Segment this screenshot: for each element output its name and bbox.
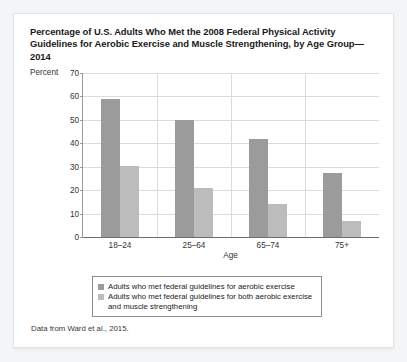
gridline-vertical <box>231 73 232 237</box>
y-axis-tick-label: 60 <box>70 92 79 101</box>
bar <box>323 173 342 237</box>
gridline-vertical <box>157 73 158 237</box>
y-axis-tick-label: 20 <box>70 186 79 195</box>
bar-chart: Percent 01020304050607018–2425–6465–7475… <box>30 68 382 254</box>
y-axis-tick-mark <box>80 237 83 238</box>
y-axis-tick-mark <box>80 214 83 215</box>
y-axis-tick-label: 10 <box>70 209 79 218</box>
y-axis-label: Percent <box>30 68 58 77</box>
legend-label: Adults who met federal guidelines for ae… <box>108 282 295 291</box>
y-axis-tick-mark <box>80 167 83 168</box>
y-axis-tick-label: 50 <box>70 115 79 124</box>
bar <box>194 188 213 237</box>
bar <box>249 139 268 237</box>
y-axis-tick-label: 30 <box>70 162 79 171</box>
y-axis-tick-label: 0 <box>74 233 79 242</box>
bar <box>342 221 361 237</box>
gridline-vertical <box>305 73 306 237</box>
x-axis-tick-label: 18–24 <box>109 241 132 250</box>
chart-card: Percentage of U.S. Adults Who Met the 20… <box>13 13 394 348</box>
legend-label: Adults who met federal guidelines for bo… <box>108 292 315 311</box>
x-axis-tick-label: 25–64 <box>183 241 206 250</box>
y-axis-tick-label: 40 <box>70 139 79 148</box>
page-title: Percentage of U.S. Adults Who Met the 20… <box>30 26 378 63</box>
plot-area: 01020304050607018–2425–6465–7475+ <box>82 73 379 238</box>
y-axis-tick-mark <box>80 96 83 97</box>
legend-item: Adults who met federal guidelines for bo… <box>98 292 315 311</box>
bar <box>175 120 194 237</box>
legend-swatch-aerobic-icon <box>98 284 104 290</box>
y-axis-tick-mark <box>80 143 83 144</box>
legend-item: Adults who met federal guidelines for ae… <box>98 282 315 291</box>
y-axis-tick-label: 70 <box>70 69 79 78</box>
chart-legend: Adults who met federal guidelines for ae… <box>92 276 322 317</box>
y-axis-tick-mark <box>80 120 83 121</box>
x-axis-tick-label: 65–74 <box>257 241 280 250</box>
bar <box>101 99 120 237</box>
y-axis-tick-mark <box>80 73 83 74</box>
source-note: Data from Ward et al., 2015. <box>31 324 129 333</box>
x-axis-label: Age <box>82 251 379 260</box>
y-axis-tick-mark <box>80 190 83 191</box>
x-axis-tick-label: 75+ <box>335 241 349 250</box>
bar <box>120 166 139 237</box>
bar <box>268 204 287 237</box>
legend-swatch-both-icon <box>98 294 104 300</box>
